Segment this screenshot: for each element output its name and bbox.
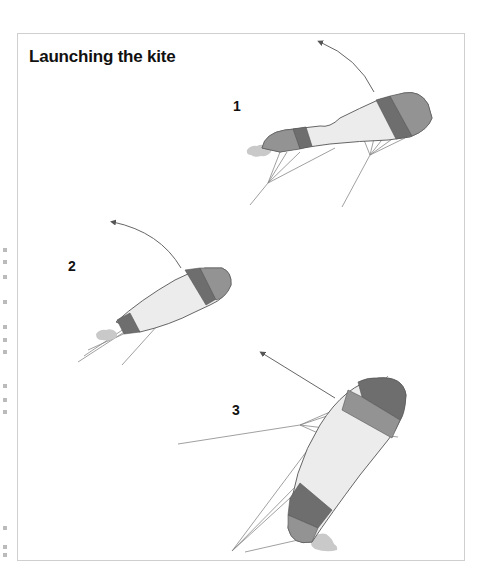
kite-launch-illustration: [0, 0, 480, 578]
kite-2: [78, 222, 231, 365]
arrow-3-icon: [262, 353, 335, 398]
arrow-1-icon: [320, 42, 374, 92]
kite-3: [178, 353, 406, 552]
arrow-2-icon: [113, 222, 181, 268]
sand-2-icon: [96, 329, 117, 340]
kite-1: [247, 42, 432, 207]
